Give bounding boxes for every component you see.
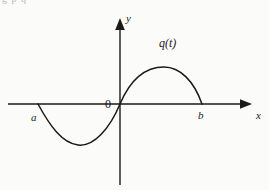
origin-label: 0 <box>105 98 111 110</box>
x-axis-label: x <box>256 110 261 121</box>
y-axis-arrowhead <box>115 18 125 30</box>
y-axis-label: y <box>126 13 131 24</box>
right-root-label-b: b <box>198 110 204 121</box>
figure-container: g p q y x 0 a b q(t) <box>0 0 269 190</box>
x-axis-arrowhead <box>240 99 252 109</box>
function-label-qt: q(t) <box>159 37 176 49</box>
coordinate-plane-graphic <box>0 0 269 190</box>
left-root-label-a: a <box>31 112 37 123</box>
